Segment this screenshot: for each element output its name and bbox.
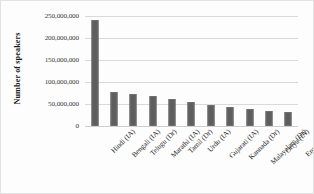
bar-series	[85, 16, 298, 126]
bar[interactable]	[227, 107, 234, 126]
bar-slot	[259, 16, 278, 126]
bar-slot	[279, 16, 298, 126]
bar-chart-figure: Number of speakers 050,000,000100,000,00…	[0, 0, 314, 194]
bar[interactable]	[169, 99, 176, 126]
bar[interactable]	[91, 20, 98, 126]
y-axis-tick-label: 200,000,000	[9, 34, 79, 42]
bar[interactable]	[207, 105, 214, 126]
bar-slot	[162, 16, 181, 126]
bar-slot	[124, 16, 143, 126]
y-axis-tick-label: 100,000,000	[9, 78, 79, 86]
bar-slot	[104, 16, 123, 126]
bar[interactable]	[130, 94, 137, 126]
y-axis-tick-label: 250,000,000	[9, 12, 79, 20]
bar[interactable]	[265, 111, 272, 126]
bar-slot	[143, 16, 162, 126]
bar[interactable]	[285, 112, 292, 126]
bar[interactable]	[246, 109, 253, 126]
y-axis-tick-label: 50,000,000	[9, 100, 79, 108]
y-axis-tick-label: 0	[9, 122, 79, 130]
bar-slot	[182, 16, 201, 126]
plot-area	[85, 16, 298, 126]
y-axis-tick-label: 150,000,000	[9, 56, 79, 64]
bar-slot	[201, 16, 220, 126]
bar-slot	[240, 16, 259, 126]
bar[interactable]	[188, 102, 195, 126]
bar-slot	[85, 16, 104, 126]
bar-slot	[221, 16, 240, 126]
x-axis-tick-labels: Hindi (IA)Bengali (IA)Telugu (Dr)Marathi…	[85, 127, 298, 193]
bar[interactable]	[149, 96, 156, 126]
bar[interactable]	[111, 92, 118, 126]
